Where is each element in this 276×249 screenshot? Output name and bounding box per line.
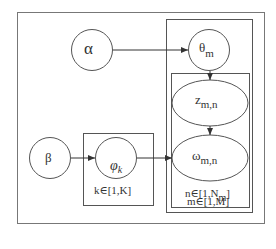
plate-m-label: m∈[1,M] — [187, 195, 229, 208]
omega-sub: m,n — [201, 154, 218, 166]
z-sub: m,n — [201, 98, 218, 110]
phi-symbol: φ — [110, 158, 118, 173]
z-symbol: z — [195, 92, 201, 107]
plate-diagram — [0, 0, 276, 249]
label-z: zm,n — [195, 92, 218, 108]
omega-symbol: ω — [192, 148, 201, 163]
label-theta: θm — [199, 40, 214, 56]
phi-sub: k — [118, 164, 122, 175]
label-omega: ωm,n — [192, 148, 217, 164]
label-alpha: α — [84, 39, 93, 59]
label-beta: β — [45, 150, 52, 166]
label-phi: φk — [110, 158, 122, 174]
plate-k-label: k∈[1,K] — [94, 184, 131, 197]
theta-sub: m — [205, 47, 214, 59]
